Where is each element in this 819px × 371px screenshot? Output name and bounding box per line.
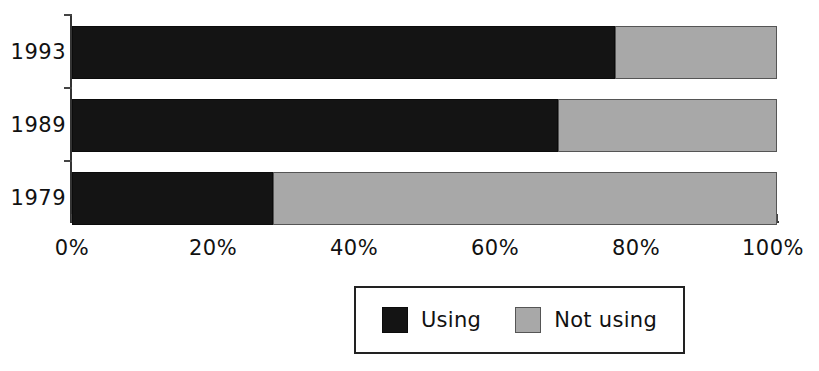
y-axis-tick-top (64, 14, 72, 16)
legend-item-not-using: Not using (515, 307, 657, 333)
bar-row-1989 (72, 99, 777, 152)
bar-segment-using-1979 (72, 172, 273, 225)
y-axis-labels: 1993 1989 1979 (0, 0, 66, 371)
bar-segment-using-1989 (72, 99, 558, 152)
y-axis-tick-1 (64, 87, 72, 89)
legend-label-using: Using (421, 308, 481, 332)
legend-swatch-not-using-icon (515, 307, 541, 333)
x-axis-tick-label-40: 40% (330, 236, 378, 260)
bar-row-1979 (72, 172, 777, 225)
bar-segment-not-using-1979 (273, 172, 777, 225)
bar-row-1993 (72, 26, 777, 79)
legend-item-using: Using (382, 307, 481, 333)
plot-area (72, 14, 777, 219)
legend-label-not-using: Not using (554, 308, 657, 332)
bar-segment-using-1993 (72, 26, 615, 79)
chart-legend: Using Not using (354, 286, 685, 354)
x-axis-tick-label-0: 0% (55, 236, 89, 260)
x-axis-tick-label-60: 60% (471, 236, 519, 260)
y-axis-tick-2 (64, 160, 72, 162)
legend-swatch-using-icon (382, 307, 408, 333)
y-axis-label-1989: 1989 (0, 113, 66, 137)
stacked-bar-chart: 1993 1989 1979 0% 20% 40% 60% 80% 100% (0, 0, 819, 371)
x-axis-tick-label-80: 80% (612, 236, 660, 260)
bar-segment-not-using-1989 (558, 99, 777, 152)
y-axis-label-1993: 1993 (0, 40, 66, 64)
x-axis-tick-label-100: 100% (742, 236, 804, 260)
x-axis-tick-label-20: 20% (189, 236, 237, 260)
bar-segment-not-using-1993 (615, 26, 777, 79)
y-axis-label-1979: 1979 (0, 186, 66, 210)
